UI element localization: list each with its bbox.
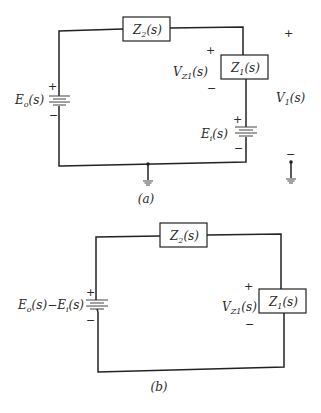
wire-a-left-top — [59, 29, 123, 96]
wire-b-left-top — [96, 236, 160, 291]
svg-text:+: + — [206, 44, 215, 57]
svg-text:−: − — [234, 142, 243, 155]
svg-text:+: + — [233, 113, 242, 126]
figure-a: Z2(s) Z1(s) + VZ1(s) − + − Eo(s) — [14, 17, 306, 206]
svg-text:Z1(s): Z1(s) — [268, 295, 298, 311]
figure-b: Z2(s) Z1(s) + VZ1(s) − + − Eo(s)−Ei(s) (… — [17, 223, 306, 394]
svg-text:−: − — [245, 318, 254, 331]
svg-text:+: + — [244, 280, 253, 293]
svg-text:−: − — [49, 109, 58, 122]
wire-b-bottom — [98, 312, 284, 372]
svg-text:V1(s): V1(s) — [276, 91, 306, 107]
impedance-z1-b: Z1(s) — [259, 289, 306, 313]
svg-text:+: + — [86, 286, 95, 299]
svg-text:VZ1(s): VZ1(s) — [222, 300, 257, 316]
svg-text:−: − — [286, 148, 295, 161]
svg-text:+: + — [284, 27, 293, 40]
svg-text:−: − — [86, 314, 95, 327]
source-eo-minus-ei-b: + − Eo(s)−Ei(s) — [17, 286, 108, 327]
svg-text:Z1(s): Z1(s) — [230, 61, 260, 77]
svg-text:Z2(s): Z2(s) — [132, 23, 162, 39]
svg-text:Ei(s): Ei(s) — [200, 127, 228, 143]
impedance-z2-a: Z2(s) — [123, 17, 170, 41]
impedance-z2-b: Z2(s) — [160, 223, 207, 247]
svg-text:Z2(s): Z2(s) — [169, 229, 199, 245]
source-ei-a: + − Ei(s) — [200, 113, 257, 155]
circuit-figure: Z2(s) Z1(s) + VZ1(s) − + − Eo(s) — [0, 0, 321, 413]
svg-text:−: − — [207, 82, 216, 95]
terminal-ground-icon — [286, 160, 296, 183]
svg-text:Eo(s)−Ei(s): Eo(s)−Ei(s) — [17, 298, 84, 314]
voltage-vz1-a: + VZ1(s) − — [173, 44, 216, 95]
source-eo-a: + − Eo(s) — [14, 80, 70, 122]
caption-a: (a) — [138, 192, 155, 206]
svg-text:VZ1(s): VZ1(s) — [173, 65, 208, 81]
svg-text:+: + — [48, 80, 57, 93]
caption-b: (b) — [150, 380, 167, 394]
impedance-z1-a: Z1(s) — [221, 55, 268, 79]
svg-text:Eo(s): Eo(s) — [14, 93, 44, 109]
ground-icon — [143, 162, 153, 185]
voltage-v1-a: + V1(s) − — [276, 27, 306, 161]
voltage-vz1-b: + VZ1(s) − — [222, 280, 257, 331]
